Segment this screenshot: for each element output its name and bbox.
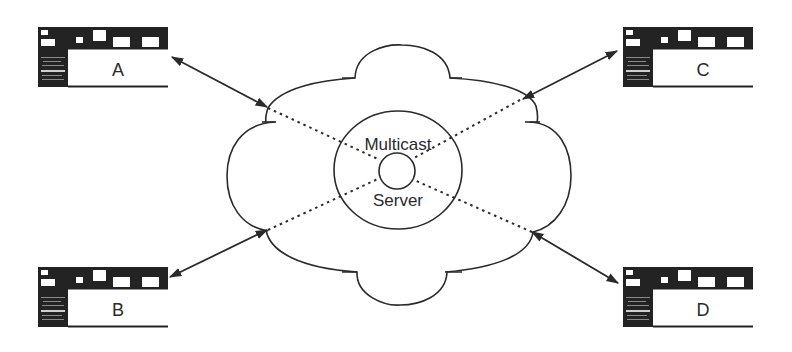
link-b [170,230,267,277]
server-label-top: Multicast [364,135,431,154]
link-d [532,232,618,283]
multicast-network-diagram: Multicast Server A B C D [0,0,792,352]
terminal-d-label: D [697,300,710,320]
terminal-b-label: B [112,300,124,320]
terminal-c-label: C [697,60,710,80]
multicast-server-node [379,153,415,189]
link-a [172,57,267,107]
terminal-c: C [623,27,753,87]
link-c [523,51,617,99]
terminal-a: A [38,27,168,87]
terminal-d: D [623,267,753,327]
server-label-bottom: Server [373,191,423,210]
terminal-a-label: A [112,60,124,80]
terminal-b: B [38,267,168,327]
